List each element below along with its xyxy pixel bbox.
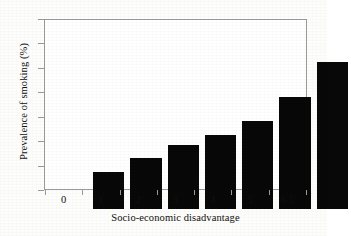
bar xyxy=(317,62,348,209)
x-tick-label: 4 xyxy=(194,194,231,205)
bar-slot xyxy=(239,40,276,209)
x-tick-label: 0 xyxy=(45,194,82,205)
x-tick-label: 1 xyxy=(82,194,119,205)
bar-slot xyxy=(202,40,239,209)
bar-slot xyxy=(90,40,127,209)
bar-slot xyxy=(276,40,313,209)
x-tick-label: 6.5 xyxy=(269,194,306,205)
y-axis-title: Prevalence of smoking (%) xyxy=(18,17,29,187)
bar-slot xyxy=(314,40,351,209)
x-tick-mark xyxy=(306,190,307,195)
bar-slot xyxy=(165,40,202,209)
plot-area xyxy=(44,19,307,190)
y-tick-mark xyxy=(38,190,44,191)
x-tick-label: 3 xyxy=(157,194,194,205)
bar-series xyxy=(90,40,351,209)
x-axis-title: Socio-economic disadvantage xyxy=(44,212,307,223)
x-tick-label: 5 xyxy=(231,194,268,205)
x-axis-tick-labels: 0123456.5 xyxy=(45,194,306,205)
x-tick-label: 2 xyxy=(120,194,157,205)
bar-slot xyxy=(127,40,164,209)
